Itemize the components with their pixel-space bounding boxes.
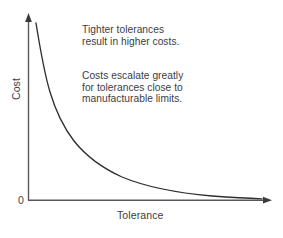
y-axis-label: Cost <box>10 78 22 100</box>
annotation-tighter-tolerances: Tighter tolerances result in higher cost… <box>82 24 179 47</box>
x-axis-label: Tolerance <box>117 209 163 221</box>
x-axis-arrow-icon <box>263 197 272 204</box>
origin-label: 0 <box>18 194 24 206</box>
y-axis-arrow-icon <box>25 13 32 22</box>
cost-curve <box>36 23 262 199</box>
cost-tolerance-chart: Cost Tolerance 0 Tighter tolerances resu… <box>0 0 283 238</box>
annotation-costs-escalate: Costs escalate greatly for tolerances cl… <box>82 70 183 105</box>
